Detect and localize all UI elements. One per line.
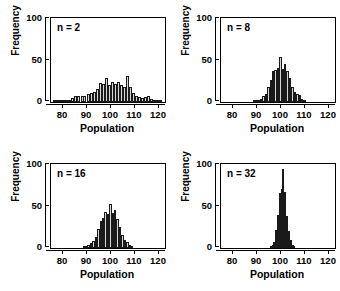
plot-area: n = 2 [50,17,166,103]
x-axis-label: Population [50,268,164,280]
y-tick-100 [45,17,49,18]
y-tick-label-100: 100 [18,13,42,22]
histogram-bar [303,100,305,102]
central-limit-theorem-figure: Frequency 100 50 0 n = 2 80 90 100 110 1… [0,0,340,291]
x-tick-label-100: 100 [267,255,293,266]
y-tick-100 [215,17,219,18]
x-tick-90 [86,104,87,108]
y-tick-label-50: 50 [18,55,42,64]
y-tick-100 [45,163,49,164]
y-tick-label-50: 50 [188,55,212,64]
y-tick-50 [215,59,219,60]
plot-area: n = 16 [50,163,166,249]
x-tick-label-90: 90 [243,109,269,120]
x-tick-110 [134,250,135,254]
y-tick-100 [215,163,219,164]
x-tick-label-90: 90 [73,109,99,120]
x-tick-label-110: 110 [121,255,147,266]
x-tick-label-120: 120 [145,109,171,120]
x-tick-110 [304,250,305,254]
x-tick-90 [86,250,87,254]
x-tick-120 [158,104,159,108]
x-tick-80 [62,250,63,254]
x-tick-80 [62,104,63,108]
x-axis-line [216,250,335,251]
histogram-bars [51,18,165,102]
y-tick-label-0: 0 [188,96,212,105]
x-tick-label-90: 90 [73,255,99,266]
x-tick-label-120: 120 [315,255,340,266]
x-axis-label: Population [50,122,164,134]
x-tick-100 [110,104,111,108]
y-tick-0 [215,100,219,101]
histogram-bars [51,164,165,248]
x-tick-label-80: 80 [219,255,245,266]
y-tick-label-0: 0 [18,96,42,105]
y-tick-50 [215,205,219,206]
x-tick-120 [158,250,159,254]
y-tick-label-0: 0 [18,242,42,251]
y-tick-label-50: 50 [188,201,212,210]
x-tick-80 [232,250,233,254]
x-tick-label-80: 80 [49,109,75,120]
plot-area: n = 8 [220,17,336,103]
panel-n-16: Frequency 100 50 0 n = 16 80 90 100 110 … [0,146,170,291]
panel-n-32: Frequency 100 50 0 n = 32 80 90 100 110 … [170,146,340,291]
histogram-bars [221,164,335,248]
x-tick-120 [328,104,329,108]
histogram-bar [293,246,295,248]
x-axis-line [216,104,335,105]
y-tick-0 [215,246,219,247]
y-tick-0 [45,246,49,247]
x-axis-line [46,104,165,105]
histogram-bar [159,100,162,102]
y-tick-label-100: 100 [188,159,212,168]
x-tick-110 [304,104,305,108]
x-tick-label-120: 120 [315,109,340,120]
y-tick-label-0: 0 [188,242,212,251]
x-tick-label-100: 100 [97,109,123,120]
y-tick-label-100: 100 [188,13,212,22]
x-axis-label: Population [220,268,334,280]
x-tick-label-110: 110 [291,255,317,266]
y-tick-0 [45,100,49,101]
x-tick-label-100: 100 [97,255,123,266]
x-tick-120 [328,250,329,254]
x-tick-label-110: 110 [291,109,317,120]
x-tick-label-100: 100 [267,109,293,120]
plot-area: n = 32 [220,163,336,249]
x-tick-100 [280,104,281,108]
y-tick-label-50: 50 [18,201,42,210]
x-tick-label-110: 110 [121,109,147,120]
x-axis-label: Population [220,122,334,134]
x-tick-label-80: 80 [219,109,245,120]
panel-n-2: Frequency 100 50 0 n = 2 80 90 100 110 1… [0,0,170,145]
x-tick-110 [134,104,135,108]
x-tick-label-80: 80 [49,255,75,266]
y-tick-50 [45,59,49,60]
x-tick-90 [256,250,257,254]
histogram-bar [131,246,133,248]
x-tick-100 [110,250,111,254]
x-tick-100 [280,250,281,254]
x-tick-80 [232,104,233,108]
panel-n-8: Frequency 100 50 0 n = 8 80 90 100 110 1… [170,0,340,145]
x-tick-label-120: 120 [145,255,171,266]
x-tick-label-90: 90 [243,255,269,266]
x-axis-line [46,250,165,251]
x-tick-90 [256,104,257,108]
y-tick-50 [45,205,49,206]
y-tick-label-100: 100 [18,159,42,168]
histogram-bars [221,18,335,102]
